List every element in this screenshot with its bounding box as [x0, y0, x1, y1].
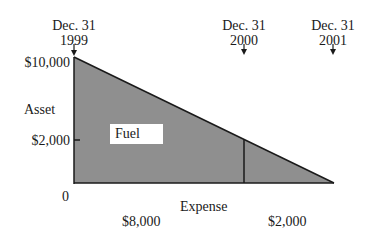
y-tick-label-0: 0 — [62, 189, 69, 204]
y-axis-title: Asset — [24, 102, 55, 117]
marker-date: Dec. 31 — [44, 18, 104, 33]
expense-segment-1: $8,000 — [122, 214, 161, 229]
marker-year: 1999 — [44, 33, 104, 48]
marker-1999: Dec. 31 1999 — [44, 18, 104, 48]
y-tick-label-2000: $2,000 — [14, 133, 70, 148]
fuel-label: Fuel — [110, 124, 163, 144]
marker-year: 2000 — [214, 33, 274, 48]
marker-date: Dec. 31 — [214, 18, 274, 33]
y-tick-label-10000: $10,000 — [14, 55, 70, 70]
x-axis-title: Expense — [180, 199, 227, 214]
marker-2001: Dec. 31 2001 — [303, 18, 363, 48]
marker-2000: Dec. 31 2000 — [214, 18, 274, 48]
expense-segment-2: $2,000 — [268, 214, 307, 229]
marker-date: Dec. 31 — [303, 18, 363, 33]
marker-year: 2001 — [303, 33, 363, 48]
